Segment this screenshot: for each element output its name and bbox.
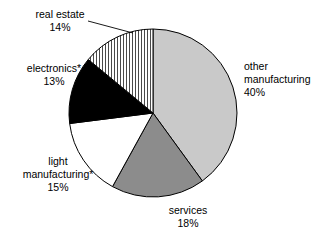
slice-label-light-manufacturing-name-line2: manufacturing*	[6, 168, 110, 181]
pie-chart: real estate 14% electronics* 13% light m…	[0, 0, 319, 242]
slice-label-other-manufacturing-name-line2: manufacturing	[244, 73, 319, 86]
slice-label-light-manufacturing-value: 15%	[6, 181, 110, 194]
slice-label-real-estate: real estate 14%	[14, 8, 106, 34]
slice-label-light-manufacturing-name-line1: light	[6, 155, 110, 168]
slice-label-light-manufacturing: light manufacturing* 15%	[6, 155, 110, 194]
slice-label-other-manufacturing-name-line1: other	[244, 60, 319, 73]
slice-label-real-estate-value: 14%	[14, 21, 106, 34]
slice-label-services: services 18%	[148, 204, 228, 230]
slice-label-services-name: services	[148, 204, 228, 217]
slice-label-electronics: electronics* 13%	[8, 62, 100, 88]
slice-label-electronics-name: electronics*	[8, 62, 100, 75]
slice-label-electronics-value: 13%	[8, 75, 100, 88]
slice-label-services-value: 18%	[148, 217, 228, 230]
slice-label-other-manufacturing: other manufacturing 40%	[244, 60, 319, 99]
slice-label-other-manufacturing-value: 40%	[244, 86, 319, 99]
slice-label-real-estate-name: real estate	[14, 8, 106, 21]
